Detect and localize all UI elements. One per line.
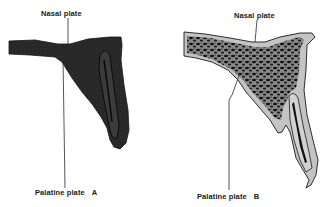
panel-letter-b: B [254, 192, 260, 201]
palatine-plate-text-b: Palatine plate [197, 192, 247, 201]
label-palatine-plate-b: Palatine plateB [197, 192, 259, 201]
leader-line-palatine-a [63, 58, 65, 188]
panel-letter-a: A [92, 188, 98, 197]
label-nasal-plate-a: Nasal plate [41, 9, 82, 18]
leader-line-nasal-b [255, 20, 257, 42]
label-nasal-plate-b: Nasal plate [234, 11, 275, 20]
specimen-a [9, 18, 129, 188]
nasal-plate-text-b: Nasal plate [234, 11, 275, 20]
label-palatine-plate-a: Palatine plateA [35, 188, 97, 197]
palatine-plate-text-a: Palatine plate [35, 188, 85, 197]
figure-drawing [0, 0, 334, 207]
leader-line-palatine-b [229, 73, 240, 190]
nasal-plate-text-a: Nasal plate [41, 9, 82, 18]
anatomical-figure: Nasal plate Palatine plateA Nasal plate … [0, 0, 334, 207]
specimen-b [184, 20, 318, 190]
